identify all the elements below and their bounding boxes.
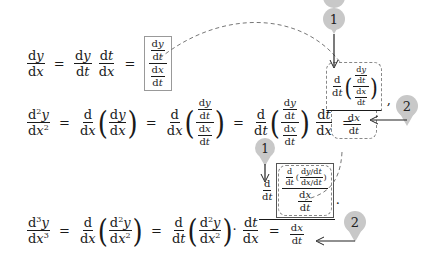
pin-1-lower-icon: 1 — [255, 138, 275, 182]
svg-text:1: 1 — [330, 12, 338, 27]
svg-text:1: 1 — [261, 142, 269, 156]
annotation-layer: 1 2 1 2 — [0, 0, 437, 262]
pin-2-icon: 2 — [370, 95, 418, 126]
svg-text:2: 2 — [403, 99, 411, 114]
pin-1-icon: 1 — [323, 0, 345, 68]
pin-2-lower-icon: 2 — [316, 211, 366, 245]
svg-text:2: 2 — [351, 215, 359, 230]
dashed-connector-1 — [160, 22, 342, 200]
